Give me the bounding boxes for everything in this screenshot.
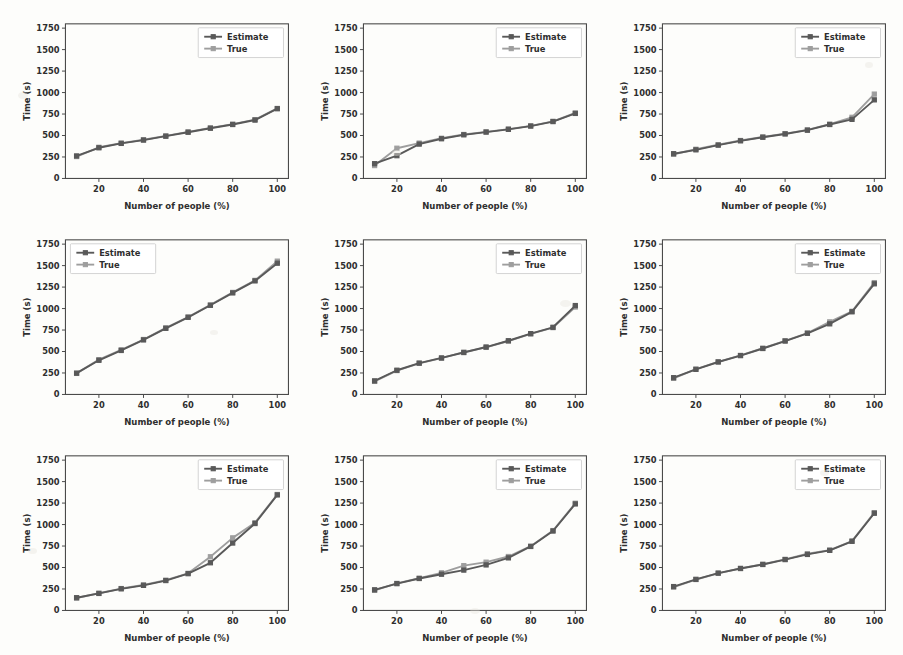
y-tick-label: 1000: [335, 520, 358, 530]
data-point-marker: [551, 325, 555, 329]
data-point-marker: [827, 548, 831, 552]
y-tick-label: 1500: [335, 45, 358, 55]
data-point-marker: [693, 148, 697, 152]
series-line-estimate: [375, 504, 576, 590]
x-tick-label: 100: [567, 400, 585, 410]
y-axis-label: Time (s): [618, 81, 628, 120]
legend-marker-swatch: [509, 479, 513, 483]
y-tick-label: 1000: [335, 304, 358, 314]
y-tick-label: 500: [340, 347, 358, 357]
series-line-true: [375, 307, 576, 381]
x-tick-label: 100: [865, 616, 883, 626]
chart-panel-5: 0250500750100012501500175020406080100Num…: [302, 222, 600, 438]
y-tick-label: 750: [340, 109, 358, 119]
chart-panel-8: 0250500750100012501500175020406080100Num…: [302, 438, 600, 654]
series-line-estimate: [673, 284, 874, 378]
data-point-marker: [440, 137, 444, 141]
y-tick-label: 250: [42, 584, 60, 594]
chart-svg: 0250500750100012501500175020406080100Num…: [4, 438, 302, 654]
legend-marker-swatch: [509, 35, 513, 39]
y-tick-label: 500: [639, 130, 657, 140]
data-point-marker: [275, 261, 279, 265]
legend-label-true: True: [824, 476, 845, 486]
y-tick-label: 500: [639, 563, 657, 573]
chart-svg: 0250500750100012501500175020406080100Num…: [601, 6, 899, 222]
y-tick-label: 1250: [36, 66, 59, 76]
data-point-marker: [97, 146, 101, 150]
y-tick-label: 1500: [633, 477, 656, 487]
data-point-marker: [529, 545, 533, 549]
legend-label-true: True: [824, 260, 845, 270]
y-tick-label: 1250: [633, 498, 656, 508]
legend-label-true: True: [227, 476, 248, 486]
x-tick-label: 60: [182, 184, 194, 194]
y-tick-label: 500: [639, 347, 657, 357]
data-point-marker: [231, 541, 235, 545]
x-tick-label: 80: [824, 400, 836, 410]
y-tick-label: 1750: [36, 455, 59, 465]
x-tick-label: 80: [824, 184, 836, 194]
chart-panel-2: 0250500750100012501500175020406080100Num…: [302, 6, 600, 222]
data-point-marker: [738, 567, 742, 571]
data-point-marker: [507, 556, 511, 560]
x-tick-label: 20: [391, 184, 403, 194]
x-tick-label: 20: [391, 400, 403, 410]
data-point-marker: [208, 555, 212, 559]
legend-label-estimate: Estimate: [824, 32, 866, 42]
series-line-true: [673, 94, 874, 154]
y-tick-label: 1750: [36, 239, 59, 249]
series-line-estimate: [77, 495, 278, 598]
data-point-marker: [507, 127, 511, 131]
x-tick-label: 80: [227, 616, 239, 626]
y-tick-label: 0: [352, 606, 358, 616]
data-point-marker: [529, 124, 533, 128]
y-tick-label: 500: [42, 563, 60, 573]
y-tick-label: 1750: [335, 455, 358, 465]
x-axis-label: Number of people (%): [721, 201, 827, 211]
legend-marker-swatch: [211, 35, 215, 39]
legend-marker-swatch: [808, 47, 812, 51]
data-point-marker: [97, 358, 101, 362]
y-tick-label: 1750: [335, 239, 358, 249]
legend-marker-swatch: [808, 251, 812, 255]
x-axis-label: Number of people (%): [721, 417, 827, 427]
data-point-marker: [760, 346, 764, 350]
legend-label-true: True: [824, 44, 845, 54]
y-tick-label: 1500: [36, 477, 59, 487]
x-tick-label: 40: [734, 616, 746, 626]
y-tick-label: 1000: [633, 88, 656, 98]
y-axis-label: Time (s): [22, 514, 32, 553]
x-axis-label: Number of people (%): [721, 633, 827, 643]
y-tick-label: 750: [639, 541, 657, 551]
y-tick-label: 250: [42, 152, 60, 162]
legend-marker-swatch: [808, 479, 812, 483]
x-tick-label: 60: [481, 400, 493, 410]
chart-svg: 0250500750100012501500175020406080100Num…: [302, 438, 600, 654]
data-point-marker: [462, 568, 466, 572]
y-tick-label: 1500: [335, 261, 358, 271]
legend-label-true: True: [525, 260, 546, 270]
y-tick-label: 750: [42, 109, 60, 119]
data-point-marker: [253, 118, 257, 122]
x-tick-label: 60: [182, 616, 194, 626]
series-line-estimate: [673, 100, 874, 154]
y-tick-label: 750: [42, 541, 60, 551]
x-tick-label: 20: [391, 616, 403, 626]
data-point-marker: [805, 331, 809, 335]
y-tick-label: 1000: [36, 520, 59, 530]
y-tick-label: 250: [340, 152, 358, 162]
x-tick-label: 100: [567, 616, 585, 626]
y-tick-label: 1750: [335, 23, 358, 33]
y-tick-label: 0: [650, 173, 656, 183]
y-tick-label: 250: [340, 584, 358, 594]
y-tick-label: 0: [54, 389, 60, 399]
y-tick-label: 1000: [335, 88, 358, 98]
x-tick-label: 80: [227, 184, 239, 194]
data-point-marker: [275, 107, 279, 111]
y-axis-label: Time (s): [618, 514, 628, 553]
data-point-marker: [462, 564, 466, 568]
legend-label-true: True: [525, 44, 546, 54]
chart-svg: 0250500750100012501500175020406080100Num…: [4, 222, 302, 438]
y-tick-label: 500: [340, 563, 358, 573]
x-axis-label: Number of people (%): [124, 201, 230, 211]
